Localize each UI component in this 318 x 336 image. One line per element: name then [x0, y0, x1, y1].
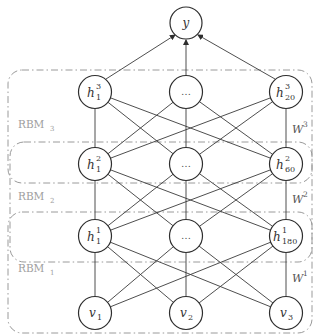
- weight-w2-label: W 2: [292, 190, 308, 206]
- svg-text:3: 3: [285, 82, 290, 91]
- layer-v: v 1 v 2 v 3: [79, 297, 303, 330]
- svg-text:h: h: [276, 158, 284, 172]
- layer-h2: h 2 1 … h 2 60: [79, 148, 303, 181]
- rbm3-label: RBM 3: [18, 118, 54, 133]
- node-h3-ellipsis: …: [170, 76, 203, 109]
- svg-text:v: v: [180, 306, 187, 320]
- svg-text:1: 1: [96, 237, 101, 246]
- svg-text:3: 3: [96, 82, 101, 91]
- svg-text:…: …: [181, 230, 191, 241]
- node-h2-60: h 2 60: [270, 148, 303, 181]
- svg-text:180: 180: [282, 237, 297, 246]
- svg-text:1: 1: [303, 269, 308, 278]
- svg-text:1: 1: [282, 226, 287, 235]
- node-h2-1: h 2 1: [79, 148, 112, 181]
- svg-text:v: v: [280, 306, 287, 320]
- svg-text:h: h: [87, 158, 95, 172]
- svg-text:20: 20: [285, 93, 295, 102]
- svg-text:h: h: [273, 230, 281, 244]
- dbn-diagram: y h 3 1 … h 3 20 h 2 1 …: [0, 0, 318, 336]
- svg-text:1: 1: [96, 165, 101, 174]
- svg-text:v: v: [89, 306, 96, 320]
- node-h3-20: h 3 20: [270, 76, 303, 109]
- node-y-label: y: [182, 16, 190, 30]
- weight-w1-label: W 1: [292, 269, 308, 285]
- node-v-3: v 3: [270, 297, 303, 330]
- svg-text:1: 1: [97, 313, 102, 322]
- weight-w3-label: W 3: [292, 120, 308, 136]
- svg-text:2: 2: [303, 190, 308, 199]
- svg-text:3: 3: [288, 313, 293, 322]
- node-h3-1: h 3 1: [79, 76, 112, 109]
- layer-h1: h 1 1 … h 1 180: [79, 220, 303, 253]
- svg-text:…: …: [181, 158, 191, 169]
- svg-text:2: 2: [96, 154, 101, 163]
- node-y: y: [170, 7, 202, 39]
- svg-text:2: 2: [285, 154, 290, 163]
- node-h2-ellipsis: …: [170, 148, 203, 181]
- node-h1-ellipsis: …: [170, 220, 203, 253]
- svg-text:60: 60: [285, 165, 295, 174]
- svg-text:RBM: RBM: [18, 262, 45, 274]
- svg-text:2: 2: [188, 313, 193, 322]
- svg-text:RBM: RBM: [18, 190, 45, 202]
- svg-text:1: 1: [50, 269, 54, 277]
- layer-h3: h 3 1 … h 3 20: [79, 76, 303, 109]
- svg-text:1: 1: [96, 226, 101, 235]
- node-h1-180: h 1 180: [270, 220, 303, 253]
- rbm2-label: RBM 2: [18, 190, 54, 205]
- svg-text:h: h: [276, 86, 284, 100]
- svg-text:2: 2: [50, 197, 54, 205]
- svg-text:3: 3: [50, 125, 54, 133]
- svg-text:3: 3: [303, 120, 308, 129]
- svg-text:RBM: RBM: [18, 118, 45, 130]
- node-v-2: v 2: [170, 297, 203, 330]
- svg-text:1: 1: [96, 93, 101, 102]
- svg-text:h: h: [87, 86, 95, 100]
- svg-text:h: h: [87, 230, 95, 244]
- rbm1-label: RBM 1: [18, 262, 54, 277]
- output-edges: [106, 35, 275, 79]
- svg-text:…: …: [181, 86, 191, 97]
- node-h1-1: h 1 1: [79, 220, 112, 253]
- node-v-1: v 1: [79, 297, 112, 330]
